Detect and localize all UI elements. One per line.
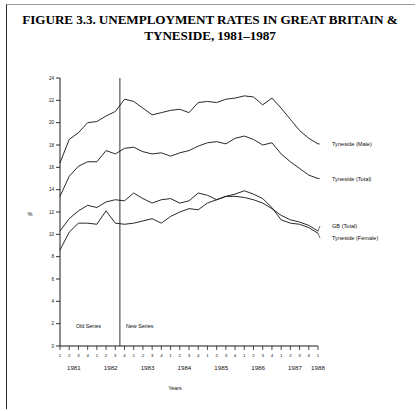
x-quarter-label: 3: [114, 353, 117, 358]
data-series-group: [60, 96, 318, 250]
x-quarter-label: 3: [151, 353, 154, 358]
series-line-1: [60, 136, 318, 196]
x-quarter-label: 3: [261, 353, 264, 358]
series-label-2: GB (Total): [332, 223, 357, 229]
series-line-3: [60, 191, 318, 250]
x-axis: 12341234123412341234123412341 1981198219…: [59, 346, 326, 371]
series-label-1: Tyneside (Total): [332, 176, 372, 182]
y-tick-label: 18: [49, 143, 55, 148]
x-quarter-label: 3: [77, 353, 80, 358]
x-quarter-label: 4: [86, 353, 89, 358]
series-labels-group: Tyneside (Male)Tyneside (Total)GB (Total…: [332, 141, 378, 241]
x-quarter-label: 2: [215, 353, 218, 358]
y-axis-ticks: 024681012141618202224: [49, 76, 60, 349]
x-quarter-label: 1: [317, 353, 320, 358]
x-quarter-label: 2: [142, 353, 145, 358]
y-axis-title: %: [28, 211, 33, 217]
old-series-annotation: Old Series: [76, 323, 101, 329]
unemployment-line-chart: 024681012141618202224 123412341234123412…: [0, 60, 417, 411]
x-quarter-label: 3: [188, 353, 191, 358]
y-tick-label: 0: [51, 344, 54, 349]
x-quarter-label: 4: [197, 353, 200, 358]
x-quarter-label: 1: [59, 353, 62, 358]
x-quarter-label: 1: [132, 353, 135, 358]
x-axis-year-labels: 19811982198319841985198619871988: [67, 364, 326, 371]
x-year-label: 1982: [104, 364, 118, 371]
x-quarter-label: 4: [160, 353, 163, 358]
y-tick-label: 16: [49, 165, 55, 170]
x-year-label: 1988: [311, 364, 325, 371]
series-line-0: [60, 96, 318, 163]
y-tick-label: 2: [51, 321, 54, 326]
y-tick-label: 20: [49, 120, 55, 125]
x-year-label: 1983: [141, 364, 155, 371]
x-quarter-label: 1: [243, 353, 246, 358]
x-quarter-label: 4: [308, 353, 311, 358]
y-tick-label: 10: [49, 232, 55, 237]
x-axis-quarter-labels: 12341234123412341234123412341: [59, 353, 320, 358]
series-leader-lines: [318, 144, 320, 238]
new-series-annotation: New Series: [126, 323, 154, 329]
y-tick-label: 8: [51, 254, 54, 259]
figure-page: FIGURE 3.3. UNEMPLOYMENT RATES IN GREAT …: [0, 0, 417, 411]
y-tick-label: 12: [49, 210, 55, 215]
x-year-label: 1986: [251, 364, 265, 371]
series-label-3: Tyneside (Female): [332, 235, 378, 241]
x-quarter-label: 1: [206, 353, 209, 358]
figure-title-line-2: TYNESIDE, 1981–1987: [12, 28, 408, 44]
x-quarter-label: 3: [298, 353, 301, 358]
x-axis-ticks: [60, 346, 318, 350]
x-year-label: 1987: [288, 364, 302, 371]
chart-area: 024681012141618202224 123412341234123412…: [0, 60, 417, 411]
y-tick-label: 14: [49, 187, 55, 192]
figure-title-line-1: FIGURE 3.3. UNEMPLOYMENT RATES IN GREAT …: [22, 12, 397, 27]
x-quarter-label: 2: [68, 353, 71, 358]
figure-title: FIGURE 3.3. UNEMPLOYMENT RATES IN GREAT …: [12, 12, 408, 44]
x-year-label: 1985: [214, 364, 228, 371]
x-quarter-label: 1: [96, 353, 99, 358]
x-axis-title: Years: [168, 385, 182, 391]
x-quarter-label: 2: [252, 353, 255, 358]
x-quarter-label: 4: [123, 353, 126, 358]
x-year-label: 1981: [67, 364, 81, 371]
y-tick-label: 22: [49, 98, 55, 103]
x-quarter-label: 4: [234, 353, 237, 358]
x-quarter-label: 4: [271, 353, 274, 358]
y-tick-label: 4: [51, 299, 54, 304]
x-quarter-label: 2: [289, 353, 292, 358]
x-quarter-label: 2: [179, 353, 182, 358]
y-axis: 024681012141618202224: [49, 76, 60, 349]
y-tick-label: 24: [49, 76, 55, 81]
x-quarter-label: 1: [169, 353, 172, 358]
series-label-0: Tyneside (Male): [332, 141, 372, 147]
x-quarter-label: 3: [225, 353, 228, 358]
series-line-2: [60, 193, 318, 231]
y-tick-label: 6: [51, 277, 54, 282]
series-leader-3: [318, 233, 320, 238]
x-quarter-label: 2: [105, 353, 108, 358]
series-leader-2: [318, 226, 320, 231]
x-quarter-label: 1: [280, 353, 283, 358]
x-year-label: 1984: [178, 364, 192, 371]
